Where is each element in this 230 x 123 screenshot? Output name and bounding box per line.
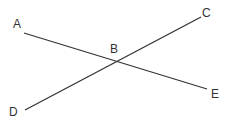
- label-e: E: [211, 87, 219, 101]
- diagram-canvas: A B C D E: [0, 0, 230, 123]
- label-d: D: [9, 105, 18, 119]
- label-c: C: [202, 6, 211, 20]
- segment-d-c: [25, 17, 201, 110]
- label-b: B: [110, 42, 118, 56]
- diagram-svg: A B C D E: [0, 0, 230, 123]
- label-a: A: [13, 17, 21, 31]
